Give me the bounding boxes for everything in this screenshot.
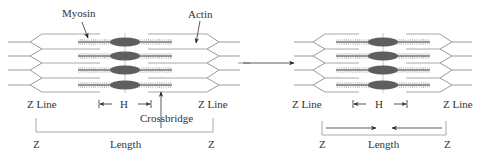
myosin-row — [336, 38, 430, 47]
length-label: Length — [110, 138, 141, 150]
myosin-row — [78, 38, 172, 47]
relaxed-sarcomere — [8, 21, 250, 132]
length-label: Length — [368, 138, 399, 150]
h-zone-label: H — [375, 98, 383, 110]
myosin-row — [336, 52, 430, 61]
z-line-left-label: Z Line — [27, 98, 57, 110]
myosin-row — [78, 52, 172, 61]
myosin-label: Myosin — [62, 7, 96, 19]
actin-pointer-arrow — [196, 21, 200, 43]
crossbridge-label: Crossbridge — [140, 112, 193, 124]
h-zone-label: H — [120, 98, 128, 110]
myosin-row — [78, 66, 172, 75]
myosin-pointer-arrow — [82, 22, 88, 38]
myosin-row — [78, 81, 172, 90]
actin-label: Actin — [188, 8, 212, 20]
sarcomere-diagram — [0, 0, 483, 160]
z-left-label: Z — [319, 138, 326, 150]
z-right-label: Z — [208, 138, 215, 150]
myosin-row — [336, 81, 430, 90]
contracted-sarcomere — [294, 33, 472, 135]
z-line-right-label: Z Line — [198, 98, 228, 110]
z-left-label: Z — [33, 138, 40, 150]
z-line-left-label: Z Line — [292, 98, 322, 110]
myosin-row — [336, 66, 430, 75]
z-line-right-label: Z Line — [443, 98, 473, 110]
z-right-label: Z — [444, 138, 451, 150]
